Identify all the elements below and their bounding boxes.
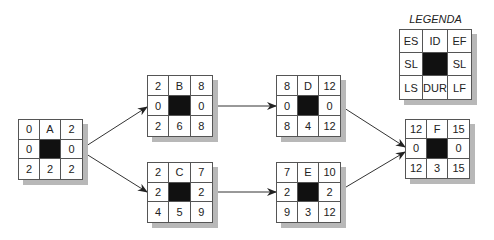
node-center-block [169, 183, 190, 203]
edge-e-f [341, 152, 405, 190]
legend-cell: SL [400, 53, 423, 76]
node-cell-es: 7 [277, 163, 298, 183]
node-cell-es: 2 [148, 163, 169, 183]
node-cell-dur: 3 [298, 202, 319, 222]
node-cell-lf: 2 [61, 159, 82, 179]
node-cell-ef: 7 [191, 163, 212, 183]
node-cell-lf: 15 [448, 159, 469, 178]
node-cell-id: A [40, 120, 61, 140]
node-cell-ls: 2 [148, 116, 169, 136]
node-cell-dur: 4 [298, 116, 319, 136]
node-cell-ls: 12 [406, 159, 427, 178]
node-cell-ls: 9 [277, 202, 298, 222]
edge-d-f [341, 106, 405, 147]
node-cell-lf: 12 [319, 202, 340, 222]
node-cell-ef: 12 [319, 76, 340, 96]
node-cell-ls: 8 [277, 116, 298, 136]
node-cell-sl-right: 2 [191, 183, 212, 203]
node-cell-ls: 4 [148, 202, 169, 222]
node-cell-ef: 8 [191, 76, 212, 96]
legend-cell: EF [448, 30, 471, 53]
legend-cell: ES [400, 30, 423, 53]
node-cell-sl-left: 0 [406, 139, 427, 158]
node-cell-sl-right: 2 [319, 183, 340, 203]
node-cell-ef: 15 [448, 120, 469, 139]
node-center-block [298, 183, 319, 203]
node-cell-id: F [427, 120, 448, 139]
node-cell-sl-right: 0 [319, 96, 340, 116]
legend-cell: ID [423, 30, 448, 53]
node-cell-id: E [298, 163, 319, 183]
node-cell-es: 2 [148, 76, 169, 96]
edge-a-c [83, 152, 147, 192]
node-cell-lf: 9 [191, 202, 212, 222]
node-cell-ef: 2 [61, 120, 82, 140]
node-cell-lf: 12 [319, 116, 340, 136]
node-cell-es: 12 [406, 120, 427, 139]
node-cell-ef: 10 [319, 163, 340, 183]
node-b: 2 B 8 0 0 2 6 8 [147, 75, 213, 137]
node-cell-sl-right: 0 [191, 96, 212, 116]
node-center-block [298, 96, 319, 116]
node-center-block [427, 139, 448, 158]
node-cell-id: D [298, 76, 319, 96]
node-cell-id: C [169, 163, 190, 183]
node-center-block [40, 140, 61, 160]
node-cell-ls: 2 [19, 159, 40, 179]
node-cell-id: B [169, 76, 190, 96]
legend-title: LEGENDA [399, 13, 472, 25]
legend-box: ES ID EF SL SL LS DUR LF [399, 29, 472, 100]
node-d: 8 D 12 0 0 8 4 12 [276, 75, 341, 137]
node-center-block [169, 96, 190, 116]
node-f: 12 F 15 0 0 12 3 15 [405, 119, 470, 179]
node-cell-es: 8 [277, 76, 298, 96]
edge-a-b [83, 107, 147, 148]
node-cell-sl-left: 2 [148, 183, 169, 203]
node-cell-sl-right: 0 [448, 139, 469, 158]
node-cell-sl-right: 0 [61, 140, 82, 160]
node-cell-sl-left: 0 [148, 96, 169, 116]
legend-cell: DUR [423, 76, 448, 99]
node-cell-es: 0 [19, 120, 40, 140]
node-e: 7 E 10 2 2 9 3 12 [276, 162, 341, 223]
node-cell-sl-left: 2 [277, 183, 298, 203]
legend-center-block [423, 53, 448, 76]
node-cell-sl-left: 0 [277, 96, 298, 116]
node-cell-lf: 8 [191, 116, 212, 136]
legend-cell: SL [448, 53, 471, 76]
node-cell-dur: 6 [169, 116, 190, 136]
node-cell-sl-left: 0 [19, 140, 40, 160]
legend-cell: LS [400, 76, 423, 99]
node-c: 2 C 7 2 2 4 5 9 [147, 162, 213, 223]
node-cell-dur: 3 [427, 159, 448, 178]
node-cell-dur: 2 [40, 159, 61, 179]
node-cell-dur: 5 [169, 202, 190, 222]
legend-cell: LF [448, 76, 471, 99]
node-a: 0 A 2 0 0 2 2 2 [18, 119, 83, 180]
